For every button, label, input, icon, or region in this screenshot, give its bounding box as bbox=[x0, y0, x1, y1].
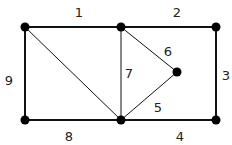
edge-label: 3 bbox=[222, 68, 230, 83]
graph-node bbox=[173, 68, 182, 77]
graph-node bbox=[117, 23, 126, 32]
edge-label: 2 bbox=[173, 5, 181, 20]
edge-label: 9 bbox=[5, 73, 13, 88]
graph-node bbox=[212, 116, 221, 125]
graph-node bbox=[117, 116, 126, 125]
edge-label: 1 bbox=[75, 5, 83, 20]
graph-node bbox=[212, 23, 221, 32]
edge-label: 6 bbox=[164, 44, 172, 59]
edge-label: 4 bbox=[176, 129, 184, 144]
edge-label: 7 bbox=[125, 66, 133, 81]
graph-node bbox=[21, 23, 30, 32]
edge-label: 5 bbox=[154, 100, 162, 115]
edge-label: 8 bbox=[65, 129, 73, 144]
edge-diagonal bbox=[25, 27, 121, 120]
graph-diagram: 123456789 bbox=[0, 0, 232, 145]
graph-node bbox=[21, 116, 30, 125]
